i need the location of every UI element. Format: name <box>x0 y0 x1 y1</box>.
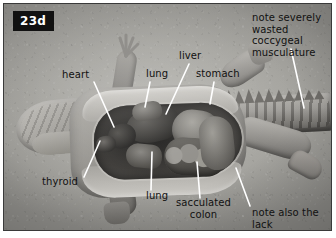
label-lung-top: lung <box>146 68 168 80</box>
label-lung-bottom: lung <box>146 190 168 202</box>
label-stomach: stomach <box>196 68 240 80</box>
figure-badge: 23d <box>13 11 54 31</box>
label-sacculated-colon: sacculated colon <box>176 197 231 220</box>
label-thyroid: thyroid <box>42 176 78 188</box>
figure-container: 23d heart lung liver stomach note severe… <box>0 0 336 238</box>
label-coccygeal-note: note severely wasted coccygeal musculatu… <box>252 12 331 58</box>
label-heart: heart <box>62 69 89 81</box>
photograph-plate: 23d heart lung liver stomach note severe… <box>3 3 332 231</box>
annotation-layer: 23d heart lung liver stomach note severe… <box>4 4 331 230</box>
label-liver: liver <box>179 50 201 62</box>
label-coelomic-fat-note: note also the lack of coelomic fat <box>252 207 331 231</box>
